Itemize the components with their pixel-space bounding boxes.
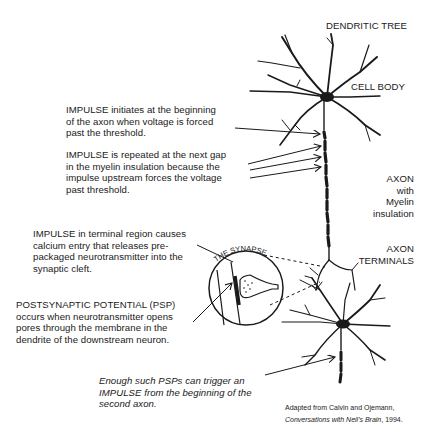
source-credit: Adapted from Calvin and Ojemann, Convers… — [285, 402, 403, 426]
axon-label-line: insulation — [370, 208, 414, 220]
annotation-line: dendrite of the downstream neuron. — [16, 334, 175, 346]
annotation-line: past threshold. — [66, 184, 226, 196]
annotation-line: second axon. — [99, 398, 252, 410]
axon-label-line: with — [370, 185, 414, 197]
annotation-line: occurs when neurotransmitter opens — [16, 311, 175, 323]
annotation-line: in the myelin insulation because the — [66, 161, 226, 173]
annotation-psp: POSTSYNAPTIC POTENTIAL (PSP) occurs when… — [16, 299, 175, 345]
annotation-line: of the axon when voltage is forced — [66, 116, 216, 128]
axon-terminals-label-line: TERMINALS — [340, 255, 414, 267]
annotation-line: synaptic cleft. — [33, 263, 186, 275]
annotation-line: packaged neurotransmitter into the — [33, 251, 186, 263]
annotation-line: calcium entry that releases pre- — [33, 240, 186, 252]
annotation-trigger-impulse: Enough such PSPs can trigger an IMPULSE … — [99, 375, 252, 410]
dendritic-tree-label: DENDRITIC TREE — [326, 20, 407, 32]
annotation-impulse-repeated: IMPULSE is repeated at the next gap in t… — [66, 149, 226, 195]
credit-year: , 1994. — [381, 416, 402, 423]
synapse-label-layer: THE SYNAPSE — [0, 0, 432, 431]
annotation-line: past the threshold. — [66, 127, 216, 139]
axon-label: AXON with Myelin insulation — [370, 173, 414, 219]
credit-line: Adapted from Calvin and Ojemann, — [285, 402, 403, 414]
annotation-line: Enough such PSPs can trigger an — [99, 375, 252, 387]
annotation-line: IMPULSE in terminal region causes — [33, 228, 186, 240]
axon-label-line: AXON — [370, 173, 414, 185]
annotation-impulse-initiates: IMPULSE initiates at the beginning of th… — [66, 104, 216, 139]
annotation-line: POSTSYNAPTIC POTENTIAL (PSP) — [16, 299, 175, 311]
axon-label-line: Myelin — [370, 196, 414, 208]
annotation-terminal-region: IMPULSE in terminal region causes calciu… — [33, 228, 186, 274]
credit-line: Conversations with Neil's Brain, 1994. — [285, 414, 403, 426]
annotation-line: IMPULSE initiates at the beginning — [66, 104, 216, 116]
cell-body-label: CELL BODY — [351, 81, 405, 93]
annotation-line: impulse upstream forces the voltage — [66, 172, 226, 184]
annotation-line: pores through the membrane in the — [16, 322, 175, 334]
synapse-label: THE SYNAPSE — [212, 244, 268, 264]
axon-terminals-label: AXON TERMINALS — [340, 243, 414, 266]
axon-terminals-label-line: AXON — [340, 243, 414, 255]
credit-book-title: Conversations with Neil's Brain — [285, 416, 381, 423]
annotation-line: IMPULSE from the beginning of the — [99, 387, 252, 399]
annotation-line: IMPULSE is repeated at the next gap — [66, 149, 226, 161]
